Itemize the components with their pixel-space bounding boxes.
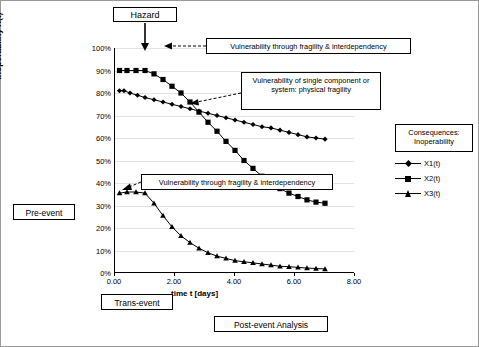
chart-figure: 0%10%20%30%40%50%60%70%80%90%100% 0.002.… <box>0 0 479 347</box>
x-axis-tick-labels: 0.002.004.006.008.00 <box>114 273 354 287</box>
chart-legend: X1(t)X2(t)X3(t) <box>395 156 465 201</box>
y-axis-tick-labels: 0%10%20%30%40%50%60%70%80%90%100% <box>73 48 111 273</box>
x-tick-label: 8.00 <box>347 277 362 286</box>
y-tick-label: 90% <box>96 66 111 75</box>
callout-trans-event: Trans-event <box>101 294 173 310</box>
x-tick-label: 2.00 <box>167 277 182 286</box>
x-tick-label: 0.00 <box>107 277 122 286</box>
legend-item-x2t: X2(t) <box>395 171 465 186</box>
y-tick-label: 30% <box>96 201 111 210</box>
legend-marker-square-icon <box>395 173 421 184</box>
x-tick-mark <box>354 273 355 276</box>
y-tick-label: 50% <box>96 156 111 165</box>
callout-vulnerability-single: Vulnerability of single component or sys… <box>241 72 381 110</box>
x-tick-mark <box>294 273 295 276</box>
y-tick-label: 60% <box>96 134 111 143</box>
callout-hazard: Hazard <box>113 7 177 22</box>
x-tick-label: 6.00 <box>287 277 302 286</box>
callout-consequences: Consequences: Inoperability <box>395 124 473 152</box>
callout-vulnerability-top: Vulnerability through fragility & interd… <box>206 38 411 54</box>
y-tick-label: 20% <box>96 224 111 233</box>
x-axis-title: time t [days] <box>171 289 218 298</box>
legend-item-x1t: X1(t) <box>395 156 465 171</box>
y-tick-label: 10% <box>96 246 111 255</box>
y-tick-label: 80% <box>96 89 111 98</box>
legend-label: X3(t) <box>424 189 440 198</box>
x-tick-mark <box>234 273 235 276</box>
y-tick-label: 40% <box>96 179 111 188</box>
y-tick-label: 70% <box>96 111 111 120</box>
legend-label: X1(t) <box>424 159 440 168</box>
y-tick-label: 100% <box>92 44 111 53</box>
legend-marker-diamond-icon <box>395 158 421 169</box>
x-tick-mark <box>114 273 115 276</box>
callout-vulnerability-mid: Vulnerability through fragility & interd… <box>141 174 333 190</box>
series-x3t <box>117 189 328 271</box>
legend-label: X2(t) <box>424 174 440 183</box>
legend-item-x3t: X3(t) <box>395 186 465 201</box>
callout-pre-event: Pre-event <box>13 204 75 220</box>
y-axis-title: Inoperability X(t) <box>0 0 3 111</box>
x-tick-label: 4.00 <box>227 277 242 286</box>
x-tick-mark <box>174 273 175 276</box>
legend-marker-triangle-icon <box>395 188 421 199</box>
callout-post-event: Post-event Analysis <box>214 316 328 332</box>
